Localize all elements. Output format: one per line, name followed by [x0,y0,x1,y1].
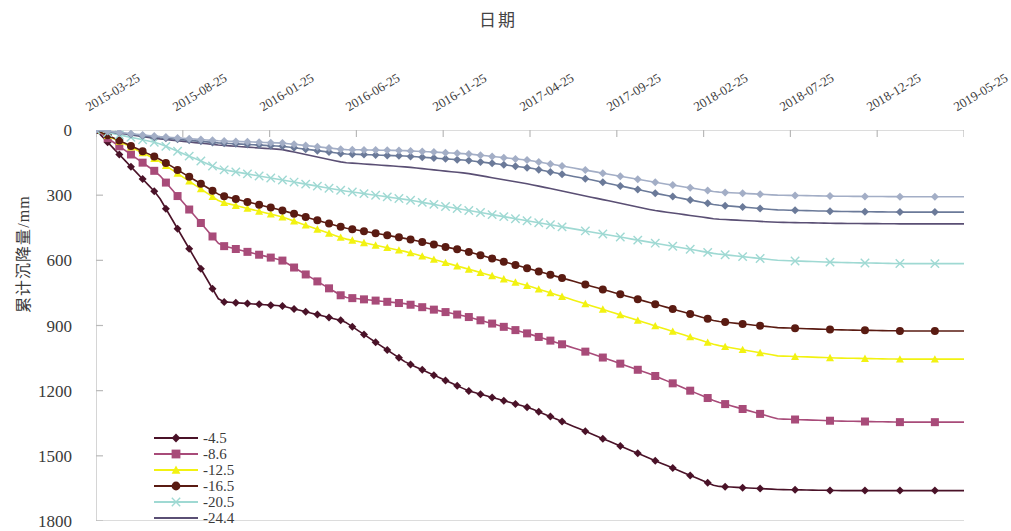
legend-item[interactable]: -8.6 [152,446,234,462]
legend-marker-x-icon [152,494,200,510]
legend-item[interactable]: -12.5 [152,462,234,478]
y-tick-label: 600 [14,251,72,271]
data-series [96,130,964,201]
legend-marker-none-icon [152,510,200,526]
x-tick-label: 2016-01-25 [256,70,316,115]
x-tick-label: 2018-12-25 [864,70,924,115]
legend-marker-circle-icon [152,478,200,494]
legend-label: -16.5 [203,478,234,495]
legend-marker-square-icon [152,446,200,462]
y-tick-label: 300 [14,186,72,206]
y-tick-label: 900 [14,317,72,337]
legend-item[interactable]: -4.5 [152,430,234,446]
legend-item[interactable]: -16.5 [152,478,234,494]
x-tick-label: 2017-09-25 [604,70,664,115]
legend-label: -20.5 [203,494,234,511]
x-tick-label: 2015-03-25 [83,70,143,115]
legend-item[interactable]: -24.4 [152,510,234,526]
legend-label: -8.6 [203,446,227,463]
x-tick-label: 2016-11-25 [430,70,490,115]
x-tick-label: 2015-08-25 [170,70,230,115]
legend-marker-triangle-icon [152,462,200,478]
legend-marker-diamond-icon [152,430,200,446]
legend-label: -24.4 [203,510,234,527]
y-tick-label: 1500 [14,447,72,467]
x-axis-ticks: 2015-03-252015-08-252016-01-252016-06-25… [0,0,996,130]
legend-label: -12.5 [203,462,234,479]
y-tick-label: 1800 [14,512,72,531]
x-tick-label: 2019-05-25 [951,70,1011,115]
x-tick-label: 2018-02-25 [690,70,750,115]
x-tick-label: 2016-06-25 [343,70,403,115]
x-tick-label: 2017-04-25 [517,70,577,115]
legend-item[interactable]: -20.5 [152,494,234,510]
x-tick-label: 2018-07-25 [777,70,837,115]
legend-label: -4.5 [203,430,227,447]
y-tick-label: 1200 [14,382,72,402]
data-series [96,130,964,426]
legend: -4.5-8.6-12.5-16.5-20.5-24.4 [152,430,234,526]
